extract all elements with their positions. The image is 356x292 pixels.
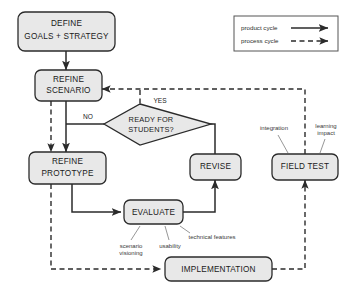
node-evaluate-label: EVALUATE xyxy=(132,208,175,217)
leader-learning-impact xyxy=(320,139,325,153)
edge-implementation-to-field-test xyxy=(272,180,305,269)
node-field-test: FIELD TEST xyxy=(272,154,338,180)
leader-usability xyxy=(165,226,169,240)
flowchart-canvas: DEFINE GOALS + STRATEGY REFINE SCENARIO … xyxy=(0,0,356,292)
node-field-test-label: FIELD TEST xyxy=(281,162,329,171)
node-refine-prototype-label-line2: PROTOTYPE xyxy=(41,169,93,178)
node-implementation-label: IMPLEMENTATION xyxy=(181,265,255,274)
node-refine-scenario-label-line2: SCENARIO xyxy=(46,86,90,95)
legend: product cycle process cycle xyxy=(234,16,338,51)
node-decision-label-line1: READY FOR xyxy=(129,115,174,124)
annotation-usability: usability xyxy=(159,243,181,249)
node-implementation: IMPLEMENTATION xyxy=(165,257,272,281)
node-define-label-line1: DEFINE xyxy=(51,19,83,28)
node-decision-ready-for-students: READY FOR STUDENTS? xyxy=(104,104,211,145)
legend-label-process-cycle: process cycle xyxy=(241,37,279,44)
annotation-technical-features: technical features xyxy=(188,234,235,240)
annotation-integration: integration xyxy=(260,125,288,131)
node-refine-prototype-label-line1: REFINE xyxy=(52,157,84,166)
leader-scenario-visioning xyxy=(131,226,140,240)
leader-integration xyxy=(278,135,288,153)
branch-label-no: NO xyxy=(83,113,93,120)
edge-refine-prototype-to-evaluate xyxy=(72,184,121,212)
node-refine-prototype: REFINE PROTOTYPE xyxy=(29,152,106,184)
node-evaluate: EVALUATE xyxy=(124,200,183,224)
node-refine-scenario-label-line1: REFINE xyxy=(53,75,85,84)
annotation-scenario-visioning-line1: scenario xyxy=(120,243,143,249)
flowchart-diagram: DEFINE GOALS + STRATEGY REFINE SCENARIO … xyxy=(0,0,356,292)
node-refine-scenario: REFINE SCENARIO xyxy=(35,70,102,101)
annotation-learning-impact-line2: impact xyxy=(317,130,335,136)
annotation-scenario-visioning-line2: visioning xyxy=(119,250,142,256)
leader-technical-features xyxy=(180,226,190,233)
node-revise-label: REVISE xyxy=(200,162,232,171)
edge-evaluate-to-revise xyxy=(183,180,215,212)
node-revise: REVISE xyxy=(190,154,241,180)
legend-label-product-cycle: product cycle xyxy=(241,24,278,31)
node-define-label-line2: GOALS + STRATEGY xyxy=(24,32,109,41)
annotation-learning-impact-line1: learning xyxy=(315,123,336,129)
node-define-goals-strategy: DEFINE GOALS + STRATEGY xyxy=(18,12,115,51)
node-decision-label-line2: STUDENTS? xyxy=(128,125,174,134)
branch-label-yes: YES xyxy=(153,97,167,104)
edge-refine-prototype-to-implementation xyxy=(51,184,161,269)
